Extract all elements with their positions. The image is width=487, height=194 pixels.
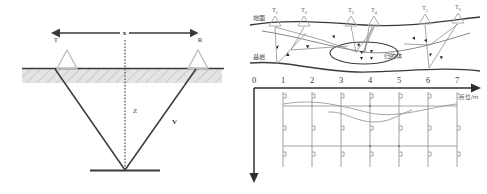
position-axis-unit-label: 点位/m (459, 93, 478, 101)
ray-arrowhead (370, 57, 373, 60)
shot-point-icon (368, 16, 380, 26)
ray-path (425, 24, 457, 68)
left-diagram-svg: x T R Z V (0, 0, 244, 194)
grid-receiver-mark (428, 94, 431, 98)
grid-node (398, 145, 400, 147)
ray-arrowhead (306, 45, 310, 49)
ray-path (275, 27, 306, 64)
grid-receiver-mark (341, 94, 344, 98)
grid-receiver-mark (370, 94, 373, 98)
transmitter-label: T (54, 36, 59, 44)
bedrock-label: 基岩 (253, 53, 265, 61)
ray-arrowhead (440, 56, 443, 60)
anomaly-body-label: 归的体 (384, 52, 403, 60)
receiver-icon (188, 50, 208, 69)
ray-path (362, 27, 369, 53)
axis-tick-label: 3 (339, 75, 343, 85)
shot-point-t4: T4 (368, 7, 380, 26)
receiver-label: R (198, 36, 203, 44)
shot-point-label: T1 (272, 7, 277, 15)
shot-point-label: T5 (422, 5, 427, 13)
axis-tick-label: 4 (368, 75, 373, 85)
grid-node-group (369, 105, 400, 147)
grid-receiver-mark (399, 126, 402, 130)
shot-point-icon (452, 13, 464, 23)
grid-receiver-mark (370, 152, 373, 156)
ray-arrowhead (412, 37, 415, 41)
ray-path-up (125, 69, 196, 170)
grid-receiver-mark (283, 152, 286, 156)
grid-receiver-mark (312, 126, 315, 130)
depth-label: Z (133, 107, 137, 115)
grid-receiver-mark (428, 126, 431, 130)
axis-tick-label: 1 (281, 75, 285, 85)
grid-receiver-mark (312, 152, 315, 156)
ray-arrowhead (360, 57, 363, 60)
ground-surface-label: 地面 (253, 14, 265, 22)
shot-point-t2: T2 (298, 7, 310, 26)
axis-tick-label: 2 (310, 75, 314, 85)
grid-node (369, 145, 371, 147)
shot-point-icon (269, 16, 281, 26)
shot-point-t1: T1 (269, 7, 281, 26)
grid-node (369, 105, 371, 107)
shot-point-label: T4 (371, 7, 376, 15)
ground-surface-curve (250, 17, 480, 26)
axis-tick-label: 5 (397, 75, 401, 85)
shot-point-t3: T3 (345, 7, 357, 26)
shot-point-t5: T5 (419, 5, 431, 24)
right-diagram-svg: 地面 基岩 归的体 T1 T2 (244, 0, 487, 194)
ray-arrowhead (424, 39, 427, 43)
axis-tick-label: 7 (455, 75, 459, 85)
grid-receiver-mark (399, 94, 402, 98)
ray-arrowhead (429, 53, 432, 57)
ray-path-down (55, 69, 125, 170)
figure-root: x T R Z V (0, 0, 487, 194)
shot-point-label: T2 (301, 7, 306, 15)
grid-receiver-mark (283, 94, 286, 98)
position-axis-ticks: 0 1 2 3 4 5 6 7 (252, 75, 459, 85)
grid-receiver-mark (428, 152, 431, 156)
grid-receiver-mark (283, 126, 286, 130)
grid-receiver-mark (370, 126, 373, 130)
axis-tick-label: 0 (252, 75, 256, 85)
grid-receiver-mark (341, 126, 344, 130)
grid-receiver-mark (312, 94, 315, 98)
axis-tick-label: 6 (426, 75, 430, 85)
cross-hole-travel-path-diagram: x T R Z V (0, 0, 244, 194)
grid-receiver-mark-group (283, 94, 460, 156)
grid-receiver-mark (457, 126, 460, 130)
ray-path (351, 26, 374, 52)
weathered-layer-hatch (22, 69, 222, 83)
grid-receiver-mark (399, 152, 402, 156)
offset-label: x (123, 29, 127, 37)
transmitter-icon (57, 50, 77, 69)
shot-point-label: T3 (348, 7, 353, 15)
ray-arrowhead (332, 35, 335, 39)
ray-path-group (275, 24, 458, 68)
grid-receiver-mark (457, 152, 460, 156)
shot-point-label: T6 (455, 4, 460, 12)
shallow-seismic-profile-and-grid-diagram: 地面 基岩 归的体 T1 T2 (244, 0, 487, 194)
grid-receiver-mark (341, 152, 344, 156)
velocity-label: V (172, 118, 177, 126)
